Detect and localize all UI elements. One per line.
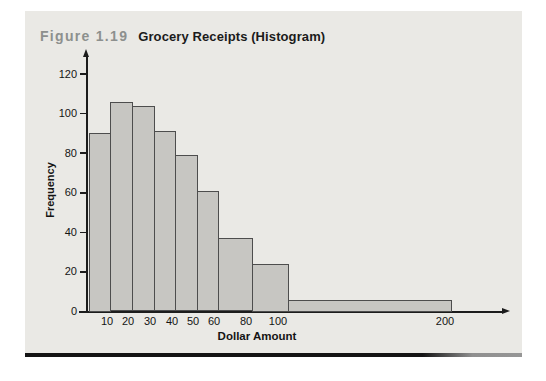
y-tick-label: 60 (40, 186, 77, 199)
y-tick-label: 100 (40, 107, 77, 120)
y-tick-mark (80, 311, 86, 313)
y-tick-mark (80, 152, 86, 154)
x-tick-label: 10 (101, 315, 113, 327)
y-axis-line (86, 57, 88, 312)
y-tick-mark (80, 271, 86, 273)
histogram-bar-0-10 (89, 133, 111, 311)
histogram-bar-100-200 (288, 300, 452, 312)
figure-title-text: Grocery Receipts (Histogram) (138, 29, 325, 44)
x-tick-label: 200 (436, 315, 454, 327)
x-tick-label: 40 (166, 315, 178, 327)
x-tick-label: 80 (240, 315, 252, 327)
page: Figure 1.19Grocery Receipts (Histogram) … (0, 0, 546, 381)
x-tick-label: 30 (144, 315, 156, 327)
histogram-bar-10-20 (110, 102, 133, 312)
y-tick-label: 120 (40, 68, 77, 81)
figure-number: Figure 1.19 (40, 28, 128, 44)
y-tick-mark (80, 232, 86, 234)
y-axis-arrow-icon (83, 49, 89, 57)
y-tick-label: 80 (40, 147, 77, 160)
y-tick-mark (80, 192, 86, 194)
x-axis-arrow-icon (502, 308, 510, 314)
x-tick-label: 100 (269, 315, 287, 327)
y-tick-label: 0 (40, 305, 77, 318)
histogram-bar-20-30 (132, 106, 155, 312)
bottom-divider (25, 353, 522, 357)
y-tick-mark (80, 73, 86, 75)
histogram-bar-40-50 (175, 155, 198, 311)
y-tick-label: 40 (40, 226, 77, 239)
x-tick-label: 20 (122, 315, 134, 327)
x-axis-title: Dollar Amount (218, 330, 297, 342)
histogram-bar-80-100 (252, 264, 289, 312)
y-tick-mark (80, 113, 86, 115)
figure-caption: Figure 1.19Grocery Receipts (Histogram) (40, 27, 325, 45)
x-tick-label: 60 (208, 315, 220, 327)
y-tick-label: 20 (40, 265, 77, 278)
histogram-bar-50-60 (197, 191, 220, 312)
x-tick-label: 50 (187, 315, 199, 327)
histogram-bar-60-80 (218, 238, 253, 311)
histogram-bar-30-40 (154, 131, 177, 311)
